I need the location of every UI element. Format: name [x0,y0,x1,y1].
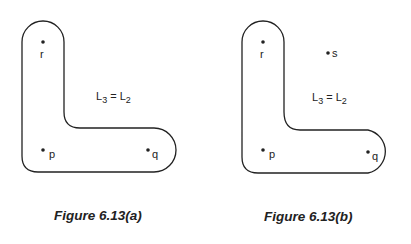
figure-caption-b: Figure 6.13(b) [264,209,353,224]
label-p-a: p [49,148,55,160]
point-r-b [261,40,265,44]
point-p-b [261,148,265,152]
point-q-b [366,150,370,154]
point-q-a [146,148,150,152]
equation-b: L3 = L2 [312,91,347,106]
point-r-a [41,40,45,44]
point-p-a [41,148,45,152]
figure-caption-a: Figure 6.13(a) [54,208,142,223]
label-s-b: s [332,47,338,59]
point-s-b [326,51,330,55]
label-p-b: p [269,148,275,160]
equation-a: L3 = L2 [96,90,131,105]
label-q-a: q [152,148,158,160]
label-r-a: r [40,48,44,60]
label-r-b: r [260,48,264,60]
label-q-b: q [372,150,378,162]
